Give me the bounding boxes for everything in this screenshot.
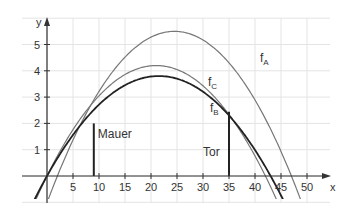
x-axis-arrow-icon — [322, 173, 331, 179]
label-tor: Tor — [203, 145, 220, 159]
x-axis-label: x — [330, 181, 336, 193]
x-tick-label: 40 — [249, 181, 261, 193]
y-tick-label: 1 — [34, 144, 40, 156]
label-f_A: fA — [260, 51, 269, 67]
y-axis-label: y — [36, 16, 42, 28]
x-tick-label: 5 — [70, 181, 76, 193]
x-tick-label: 35 — [223, 181, 235, 193]
parabola-chart: fAfCfBMauerTor 510152025303540455012345x… — [0, 0, 346, 214]
x-tick-label: 10 — [93, 181, 105, 193]
label-mauer: Mauer — [98, 127, 132, 141]
y-tick-label: 4 — [34, 65, 40, 77]
annotations: fAfCfBMauerTor — [94, 51, 270, 176]
grid — [22, 18, 330, 203]
x-tick-label: 50 — [301, 181, 313, 193]
y-tick-label: 2 — [34, 117, 40, 129]
x-tick-label: 25 — [171, 181, 183, 193]
y-tick-label: 3 — [34, 91, 40, 103]
x-tick-label: 20 — [145, 181, 157, 193]
x-tick-label: 30 — [197, 181, 209, 193]
x-tick-label: 45 — [275, 181, 287, 193]
label-f_C: fC — [208, 75, 217, 91]
x-tick-label: 15 — [119, 181, 131, 193]
y-tick-label: 5 — [34, 39, 40, 51]
